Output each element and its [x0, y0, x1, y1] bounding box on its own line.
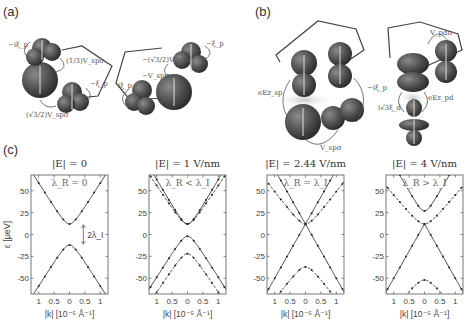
y-tick-label: 50	[20, 187, 29, 196]
annotation-vpdpi: V_pdπ	[429, 29, 453, 37]
x-tick-label: 1	[334, 297, 339, 306]
y-tick-label: 50	[375, 187, 384, 196]
x-tick-label: 1	[216, 297, 221, 306]
chart-title: |E| = 2.44 V/nm	[265, 158, 346, 170]
y-tick-label: 0	[25, 231, 30, 240]
annotation-neg-i-xi-p: −iξ_p	[8, 41, 28, 49]
y-tick-label: -50	[372, 274, 384, 283]
chart-panel-2: |E| = 1 V/nmλ_R < λ_I50250-25-5010.500.5…	[135, 158, 227, 319]
chart-subtitle: λ_R = λ_I	[283, 178, 327, 189]
chart-frame	[149, 175, 226, 294]
x-tick-label: 0.5	[49, 297, 61, 306]
chart-frame	[386, 175, 463, 294]
chart-panel-1: |E| = 0λ_R = 050250-25-5010.500.51|k| [1…	[2, 158, 110, 319]
gap-annotation: 2λ_I	[87, 230, 103, 240]
y-tick-label: -50	[135, 274, 147, 283]
x-tick-label: 0.5	[404, 297, 416, 306]
x-tick-label: 0.5	[167, 297, 179, 306]
band-curve-v1	[148, 236, 228, 291]
panel-c-band-structure-charts: |E| = 0λ_R = 050250-25-5010.500.51|k| [1…	[2, 149, 465, 320]
chart-subtitle: λ_R < λ_I	[165, 178, 209, 189]
y-tick-label: -25	[135, 252, 147, 261]
y-tick-label: -25	[17, 252, 29, 261]
y-tick-label: 25	[375, 209, 384, 218]
y-tick-label: 25	[20, 209, 29, 218]
band-curve-c2	[385, 184, 465, 224]
annotation-neg-vsps: −V_spσ	[142, 72, 169, 80]
x-axis-label: |k| [10⁻⁵ Å⁻¹]	[400, 309, 450, 319]
x-tick-label: 1	[453, 297, 458, 306]
chart-title: |E| = 0	[52, 158, 87, 170]
y-tick-label: 50	[256, 187, 265, 196]
chart-subtitle: λ_R = 0	[52, 178, 88, 189]
y-tick-label: 0	[380, 231, 385, 240]
y-axis-label: ε [μeV]	[2, 221, 12, 249]
annotation-i-sqrt3-xi-d: i√3ξ_d	[378, 104, 402, 112]
x-tick-label: 0.5	[79, 297, 91, 306]
band-curve-v1	[266, 224, 346, 295]
figure-canvas: −iξ_p (1/3)V_spσ −ξ_p (√3/2)V_spσ −(√3/2…	[0, 0, 468, 323]
panel-a-orbital-illustration: −iξ_p (1/3)V_spσ −ξ_p (√3/2)V_spσ −(√3/2…	[8, 38, 224, 119]
x-tick-label: 1	[98, 297, 103, 306]
x-tick-label: 0	[67, 297, 72, 306]
y-tick-label: 25	[256, 209, 265, 218]
x-axis-label: |k| [10⁻⁵ Å⁻¹]	[281, 309, 331, 319]
annotation-sqrt3-vsps: (√3/2)V_spσ	[26, 111, 69, 119]
annotation-neg-i-xi-p-b: −iξ_p	[367, 84, 387, 92]
band-curve-v1	[385, 224, 465, 295]
chart-panel-3: |E| = 2.44 V/nmλ_R = λ_I50250-25-5010.50…	[253, 154, 346, 320]
annotation-neg-sqrt3-vsps: −(√3/2)V_spσ	[142, 56, 191, 64]
band-curve-c1	[148, 164, 228, 224]
annotation-eez-sp: eEz_sp	[258, 89, 283, 97]
y-tick-label: 0	[143, 231, 148, 240]
y-tick-label: -25	[253, 252, 265, 261]
x-axis-label: |k| [10⁻⁵ Å⁻¹]	[45, 309, 95, 319]
x-axis-label: |k| [10⁻⁵ Å⁻¹]	[163, 309, 213, 319]
x-tick-label: 0	[303, 297, 308, 306]
x-tick-label: 0.5	[197, 297, 209, 306]
chart-title: |E| = 1 V/nm	[155, 158, 220, 170]
x-tick-label: 1	[391, 297, 396, 306]
annotation-i-xi-p: iξ_p	[118, 82, 133, 90]
y-tick-label: 50	[138, 187, 147, 196]
y-tick-label: -25	[372, 252, 384, 261]
chart-title: |E| = 4 V/nm	[392, 158, 457, 170]
x-tick-label: 0.5	[434, 297, 446, 306]
annotation-eez-pd: eEz_pd	[428, 94, 454, 102]
chart-subtitle: λ_R > λ_I	[402, 178, 446, 189]
panel-b-orbital-illustration: eEz_sp −iξ_p V_spσ V_pdπ i√3ξ_d eEz_pd	[258, 21, 462, 152]
y-tick-label: -50	[17, 274, 29, 283]
y-tick-label: 25	[138, 209, 147, 218]
x-tick-label: 0.5	[315, 297, 327, 306]
chart-panel-4: |E| = 4 V/nmλ_R > λ_I50250-25-5010.500.5…	[372, 149, 464, 320]
annotation-neg-xi-p-right: −ξ_p	[206, 40, 224, 48]
annotation-third-vsps: (1/3)V_spσ	[66, 57, 104, 65]
y-tick-label: 0	[261, 231, 266, 240]
x-tick-label: 1	[36, 297, 41, 306]
x-tick-label: 1	[154, 297, 159, 306]
x-tick-label: 0	[185, 297, 190, 306]
chart-frame	[267, 175, 344, 294]
x-tick-label: 0	[422, 297, 427, 306]
annotation-neg-xi-p: −ξ_p	[90, 80, 108, 88]
x-tick-label: 0.5	[285, 297, 297, 306]
y-tick-label: -50	[253, 274, 265, 283]
x-tick-label: 1	[272, 297, 277, 306]
annotation-vsps-b: V_spσ	[319, 144, 342, 152]
